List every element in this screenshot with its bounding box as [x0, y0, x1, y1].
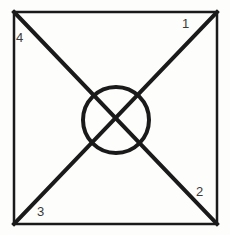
- corner-label-1: 1: [182, 17, 189, 30]
- diagram-graphic: [0, 0, 230, 235]
- corner-label-3: 3: [37, 205, 44, 218]
- diagram-canvas: 1 2 3 4: [0, 0, 230, 235]
- corner-label-2: 2: [196, 185, 203, 198]
- corner-label-4: 4: [16, 31, 23, 44]
